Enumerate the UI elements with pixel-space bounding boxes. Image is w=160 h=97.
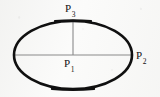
point-label-p3-subscript: 3 [72, 10, 76, 19]
point-label-p1-subscript: 1 [71, 65, 75, 74]
point-label-p2-base: P [136, 49, 142, 61]
point-label-p2: P2 [136, 50, 146, 64]
ellipse-ink-thickening-bottom [52, 89, 94, 90]
point-label-p1: P1 [64, 58, 74, 72]
point-label-p1-base: P [64, 57, 70, 69]
ellipse-ink-thickening-top [55, 20, 91, 21]
point-label-p2-subscript: 2 [143, 57, 147, 66]
point-label-p3-base: P [65, 2, 71, 14]
point-label-p3: P3 [65, 3, 75, 17]
ellipse-figure: P3 P1 P2 [0, 0, 160, 97]
